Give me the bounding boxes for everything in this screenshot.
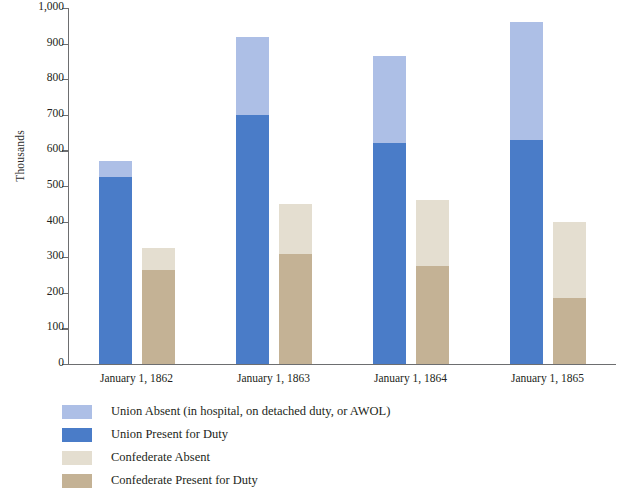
bar-segment — [236, 115, 269, 364]
bar-chart: Thousands 01002003004005006007008009001,… — [0, 0, 622, 498]
y-tick-label: 100 — [4, 320, 64, 332]
x-axis-label: January 1, 1865 — [479, 372, 616, 384]
bars-layer — [68, 8, 616, 364]
x-axis-label: January 1, 1862 — [68, 372, 205, 384]
bar-group — [236, 8, 312, 364]
bar-segment — [510, 140, 543, 364]
stacked-bar — [142, 248, 175, 364]
stacked-bar — [416, 200, 449, 364]
y-tick-label: 300 — [4, 249, 64, 261]
y-tick-label: 900 — [4, 36, 64, 48]
y-tick-label: 1,000 — [4, 0, 64, 12]
bar-segment — [142, 248, 175, 269]
y-tick-label: 500 — [4, 178, 64, 190]
legend-swatch — [62, 428, 92, 442]
y-tick-label: 600 — [4, 142, 64, 154]
plot-area: 01002003004005006007008009001,000 — [68, 8, 616, 364]
x-axis-line — [68, 364, 616, 365]
stacked-bar — [236, 36, 269, 364]
bar-segment — [373, 143, 406, 364]
bar-segment — [553, 222, 586, 299]
stacked-bar — [373, 56, 406, 364]
bar-segment — [553, 298, 586, 364]
stacked-bar — [279, 204, 312, 364]
bar-segment — [373, 56, 406, 143]
x-axis-label: January 1, 1864 — [342, 372, 479, 384]
bar-segment — [279, 254, 312, 364]
y-tick-label: 400 — [4, 214, 64, 226]
y-tick-label: 0 — [4, 356, 64, 368]
chart-legend: Union Absent (in hospital, on detached d… — [62, 400, 602, 492]
bar-segment — [99, 161, 132, 177]
legend-item: Union Present for Duty — [62, 423, 602, 446]
stacked-bar — [553, 222, 586, 364]
legend-item: Confederate Absent — [62, 446, 602, 469]
legend-label: Union Present for Duty — [111, 427, 228, 442]
stacked-bar — [99, 161, 132, 364]
bar-segment — [416, 266, 449, 364]
bar-segment — [236, 37, 269, 115]
legend-item: Union Absent (in hospital, on detached d… — [62, 400, 602, 423]
bar-segment — [416, 200, 449, 266]
legend-swatch — [62, 474, 92, 488]
bar-group — [373, 8, 449, 364]
bar-group — [510, 8, 586, 364]
legend-swatch — [62, 405, 92, 419]
legend-item: Confederate Present for Duty — [62, 469, 602, 492]
legend-swatch — [62, 451, 92, 465]
bar-segment — [510, 22, 543, 139]
x-axis-label: January 1, 1863 — [205, 372, 342, 384]
y-tick-label: 700 — [4, 107, 64, 119]
y-tick-label: 800 — [4, 71, 64, 83]
bar-segment — [279, 204, 312, 254]
legend-label: Confederate Absent — [111, 450, 210, 465]
legend-label: Union Absent (in hospital, on detached d… — [111, 404, 390, 419]
bar-group — [99, 8, 175, 364]
legend-label: Confederate Present for Duty — [111, 473, 258, 488]
bar-segment — [99, 177, 132, 364]
bar-segment — [142, 270, 175, 364]
y-tick-label: 200 — [4, 285, 64, 297]
stacked-bar — [510, 22, 543, 364]
